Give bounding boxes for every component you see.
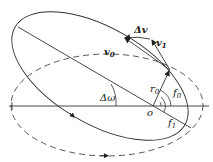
solid-orbit-direction-arrow <box>70 113 74 117</box>
delta-v-vector <box>125 37 150 39</box>
f1-arc <box>161 97 165 112</box>
solid-orbit <box>0 0 209 162</box>
f0-label: f0 <box>172 87 182 100</box>
v0-label: v0 <box>104 46 115 59</box>
small-arc <box>160 102 161 106</box>
v1-label: v1 <box>156 37 167 50</box>
orbit-diagram: Δv v1 v0 r0 f0 f1 Δω o <box>0 0 213 162</box>
delta-omega-label: Δω <box>99 92 115 103</box>
dashed-orbit <box>11 54 203 156</box>
origin-label: o <box>147 107 153 118</box>
delta-v-label: Δv <box>133 24 148 35</box>
reference-axis <box>9 102 209 110</box>
r0-label: r0 <box>150 83 160 96</box>
